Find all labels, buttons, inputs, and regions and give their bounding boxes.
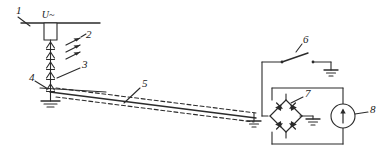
callout-label-1: 1 [16,4,22,16]
ground-cable-end [247,113,261,127]
callout-label-5: 5 [142,77,148,89]
source-block [44,23,57,40]
right-circuit-wiring [262,62,343,144]
schematic-canvas: U~ 1 2 3 4 5 6 7 8 [0,0,391,160]
callout-leader-1 [18,17,30,26]
callout-label-2: 2 [86,28,92,40]
source-voltage-label: U~ [42,9,55,20]
callout-leader-6 [296,44,302,52]
spark-arrows [66,38,80,59]
callout-leader-3 [57,68,80,78]
current-meter [331,104,355,128]
callout-label-6: 6 [303,33,309,45]
switch[interactable] [281,53,315,63]
callout-label-3: 3 [81,58,88,70]
callout-label-4: 4 [29,71,35,83]
callout-label-8: 8 [370,103,376,115]
spark-gap-chain [47,40,55,92]
ground-switch [324,70,338,76]
callout-leader-8 [355,112,368,114]
diode-bridge [270,94,302,138]
ground-bridge [306,116,320,125]
callout-label-7: 7 [305,87,311,99]
shielded-cable [50,88,256,122]
callout-leader-7 [291,97,303,103]
callout-leader-5 [124,88,140,103]
schematic-diagram: U~ 1 2 3 4 5 6 7 8 [0,0,391,160]
